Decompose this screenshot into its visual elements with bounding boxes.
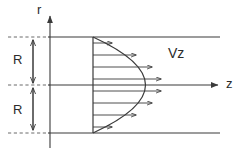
r-axis-label: r [37, 3, 41, 16]
radius-label-upper: R [13, 53, 22, 66]
velocity-profile-figure: r z Vz R R [0, 0, 245, 153]
velocity-profile-drawing [0, 0, 245, 153]
z-axis-label: z [226, 77, 233, 90]
velocity-label: Vz [168, 46, 184, 60]
radius-label-lower: R [13, 103, 22, 116]
